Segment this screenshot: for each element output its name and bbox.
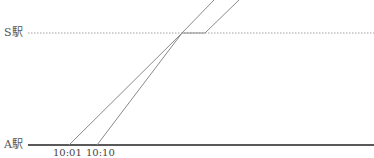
train-2-line	[97, 0, 239, 145]
train-diagram	[0, 0, 374, 158]
train-1-line	[69, 0, 214, 145]
station-s-label: S駅	[4, 27, 23, 39]
time-label-1010: 10:10	[86, 147, 115, 158]
time-label-1001: 10:01	[53, 147, 82, 158]
station-a-label: A駅	[4, 139, 23, 151]
